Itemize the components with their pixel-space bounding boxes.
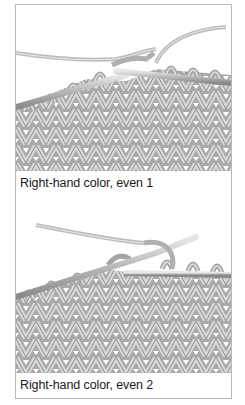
figure-frame: Right-hand color, even 1 [15, 4, 232, 399]
figure-1: Right-hand color, even 1 [16, 5, 231, 200]
figure-caption: Right-hand color, even 1 [20, 176, 153, 190]
figure-caption: Right-hand color, even 2 [20, 378, 153, 392]
figure-2: Right-hand color, even 2 [16, 203, 231, 400]
knitting-illustration-1 [16, 19, 231, 171]
knitting-illustration-2 [16, 213, 231, 373]
